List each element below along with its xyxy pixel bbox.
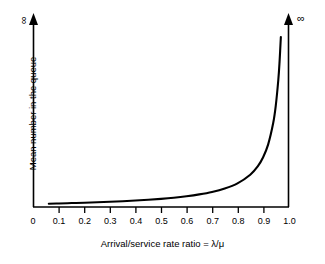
x-tick-label-0.9: 0.9 — [252, 216, 276, 226]
y-axis-arrowhead — [29, 13, 38, 25]
x-tick-label-0.3: 0.3 — [98, 216, 122, 226]
x-tick-label-0.4: 0.4 — [124, 216, 148, 226]
asymptote-infinity-label: ∞ — [297, 12, 305, 24]
queue-length-curve — [49, 37, 281, 204]
x-tick-label-0.1: 0.1 — [47, 216, 71, 226]
asymptote-arrowhead — [284, 13, 293, 25]
x-tick-label-0.7: 0.7 — [201, 216, 225, 226]
x-axis-title: Arrival/service rate ratio = λ/μ — [0, 238, 325, 249]
x-tick-label-0.6: 0.6 — [175, 216, 199, 226]
x-axis-ticks — [59, 207, 264, 213]
y-axis-infinity-label: ∞ — [16, 13, 30, 27]
asymptote-axis — [284, 13, 293, 207]
x-tick-label-0.2: 0.2 — [73, 216, 97, 226]
y-axis-title: Mean number in the queue — [27, 34, 38, 194]
x-tick-label-1.0: 1.0 — [278, 216, 302, 226]
x-tick-label-0.5: 0.5 — [150, 216, 174, 226]
x-tick-label-0: 0 — [21, 216, 45, 226]
x-tick-label-0.8: 0.8 — [226, 216, 250, 226]
queueing-theory-chart: 0 0.1 0.2 0.3 0.4 0.5 0.6 0.7 0.8 0.9 1.… — [0, 0, 325, 264]
